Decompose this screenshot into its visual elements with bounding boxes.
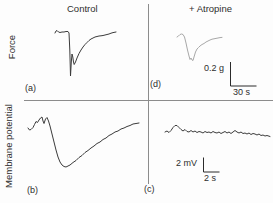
force-scale-bar (231, 62, 257, 86)
column-title-atropine: + Atropine (189, 3, 232, 14)
membrane-amplitude-scale-label: 2 mV (176, 158, 197, 168)
trace-plot-layer (0, 0, 273, 203)
row-label-force: Force (6, 35, 17, 59)
panel-label-a: (a) (25, 83, 36, 93)
panel-label-d: (d) (150, 79, 161, 89)
force-amplitude-scale-label: 0.2 g (204, 63, 224, 73)
trace-membrane-potential-atropine (165, 126, 270, 137)
trace-force-atropine (177, 34, 222, 61)
panel-label-c: (c) (144, 184, 155, 194)
force-time-scale-label: 30 s (233, 87, 250, 97)
panel-label-b: (b) (27, 185, 38, 195)
column-title-control: Control (67, 3, 98, 14)
row-label-membrane-potential: Membrane potential (3, 104, 14, 188)
membrane-time-scale-label: 2 s (204, 173, 216, 183)
trace-membrane-potential-control (28, 117, 139, 167)
trace-force-control (55, 31, 116, 77)
physiology-figure: Control + Atropine Force Membrane potent… (0, 0, 273, 203)
membrane-scale-bar (204, 158, 220, 173)
